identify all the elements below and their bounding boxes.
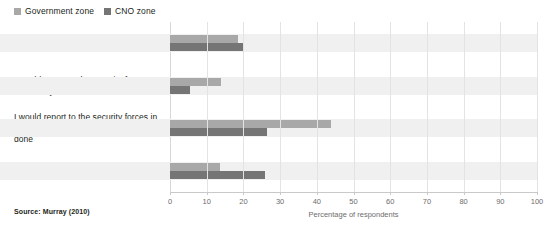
- axis-tick: [207, 192, 208, 195]
- bar-chart: NothingI would report to the security fo…: [0, 22, 554, 192]
- axis-tick-label: 0: [168, 197, 172, 206]
- chart-legend: Government zone CNO zone: [14, 6, 156, 16]
- gridline: [427, 22, 428, 192]
- gridline: [537, 22, 538, 192]
- bar: [170, 163, 220, 171]
- legend-item-cno-zone: CNO zone: [104, 6, 155, 16]
- bar: [170, 35, 238, 43]
- row-band: [0, 34, 537, 52]
- axis-tick-label: 40: [313, 197, 321, 206]
- square-swatch-icon: [104, 8, 111, 15]
- gridline: [500, 22, 501, 192]
- axis-tick-label: 100: [531, 197, 544, 206]
- gridline: [280, 22, 281, 192]
- bar: [170, 78, 221, 86]
- gridline: [243, 22, 244, 192]
- bar: [170, 128, 267, 136]
- bar: [170, 120, 331, 128]
- gridline: [464, 22, 465, 192]
- legend-item-government-zone: Government zone: [14, 6, 94, 16]
- axis-tick: [354, 192, 355, 195]
- axis-tick-label: 60: [386, 197, 394, 206]
- axis-tick: [170, 192, 171, 195]
- bar: [170, 171, 265, 179]
- axis-tick: [317, 192, 318, 195]
- legend-label: Government zone: [25, 6, 94, 16]
- axis-tick-label: 90: [496, 197, 504, 206]
- axis-tick: [537, 192, 538, 195]
- plot-area: [170, 22, 537, 192]
- row-band: [0, 162, 537, 180]
- axis-tick-label: 50: [349, 197, 357, 206]
- axis-tick: [500, 192, 501, 195]
- square-swatch-icon: [14, 8, 21, 15]
- gridline: [207, 22, 208, 192]
- axis-tick-label: 80: [459, 197, 467, 206]
- axis-tick: [280, 192, 281, 195]
- gridline: [317, 22, 318, 192]
- gridline: [390, 22, 391, 192]
- x-axis-line: 0102030405060708090100: [170, 192, 537, 193]
- axis-tick: [390, 192, 391, 195]
- axis-tick-label: 20: [239, 197, 247, 206]
- bar: [170, 86, 190, 94]
- axis-tick: [427, 192, 428, 195]
- x-axis-title: Percentage of respondents: [170, 210, 537, 219]
- gridline: [354, 22, 355, 192]
- legend-label: CNO zone: [115, 6, 155, 16]
- source-note: Source: Murray (2010): [14, 208, 90, 215]
- axis-tick-label: 10: [203, 197, 211, 206]
- axis-tick-label: 30: [276, 197, 284, 206]
- axis-tick: [243, 192, 244, 195]
- row-band: [0, 77, 537, 95]
- axis-tick-label: 70: [423, 197, 431, 206]
- axis-tick: [464, 192, 465, 195]
